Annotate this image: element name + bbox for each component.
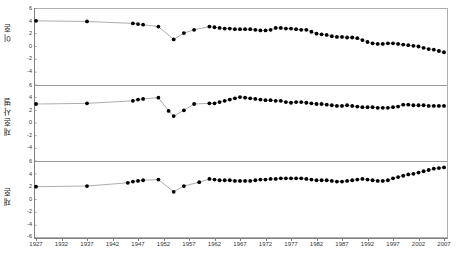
data-point — [304, 28, 308, 32]
data-point — [243, 179, 247, 183]
ytick-p2-m4: -4 — [18, 221, 32, 227]
data-point — [432, 104, 436, 108]
data-point — [218, 26, 222, 30]
data-point — [274, 177, 278, 181]
data-point — [381, 106, 385, 110]
ytick-p0-2: 2 — [18, 30, 32, 36]
data-point — [371, 41, 375, 45]
data-point — [442, 50, 446, 54]
ytick-p1-4: 4 — [18, 94, 32, 100]
data-point — [233, 179, 237, 183]
ytick-p0-4: 4 — [18, 18, 32, 24]
data-point — [442, 104, 446, 108]
data-point — [320, 32, 324, 36]
data-point — [299, 176, 303, 180]
data-point — [192, 102, 196, 106]
ytick-p2-2: 2 — [18, 183, 32, 189]
data-point — [340, 104, 344, 108]
data-point — [264, 29, 268, 33]
data-point — [213, 25, 217, 29]
data-point — [427, 47, 431, 51]
xtick-mark — [87, 238, 88, 241]
series-panel-bottom — [34, 161, 448, 238]
data-point — [355, 105, 359, 109]
data-point — [315, 178, 319, 182]
data-point — [172, 190, 176, 194]
data-point — [345, 179, 349, 183]
data-point — [406, 103, 410, 107]
xtick-mark — [291, 238, 292, 241]
data-point — [304, 177, 308, 181]
data-point — [131, 180, 135, 184]
data-point — [284, 100, 288, 104]
data-point — [350, 36, 354, 40]
ytick-p1-m2: -2 — [18, 132, 32, 138]
data-point — [330, 179, 334, 183]
data-point — [437, 166, 441, 170]
data-point — [269, 177, 273, 181]
data-point — [223, 99, 227, 103]
data-point — [233, 96, 237, 100]
data-point — [228, 27, 232, 31]
data-point — [172, 114, 176, 118]
data-point — [269, 98, 273, 102]
xtick-mark — [317, 238, 318, 241]
data-point — [85, 20, 89, 24]
data-point — [381, 179, 385, 183]
data-point — [141, 97, 145, 101]
data-point — [432, 48, 436, 52]
data-point — [279, 26, 283, 30]
data-point — [381, 42, 385, 46]
data-point — [417, 171, 421, 175]
data-point — [437, 49, 441, 53]
data-point — [218, 178, 222, 182]
ytick-p2-m6: -6 — [18, 233, 32, 239]
data-point — [355, 178, 359, 182]
xtick-mark — [36, 238, 37, 241]
data-point — [172, 38, 176, 42]
data-point — [269, 28, 273, 32]
data-point — [366, 40, 370, 44]
ytick-p0-6: 6 — [18, 5, 32, 11]
data-point — [371, 105, 375, 109]
data-point — [417, 45, 421, 49]
data-point — [335, 35, 339, 39]
data-point — [294, 100, 298, 104]
panel-title-top: 이혼 — [3, 22, 12, 42]
data-point — [427, 104, 431, 108]
data-point — [396, 175, 400, 179]
data-point — [320, 102, 324, 106]
data-point — [386, 41, 390, 45]
data-point — [157, 178, 161, 182]
ytick-p2-4: 4 — [18, 171, 32, 177]
data-point — [391, 105, 395, 109]
xtick-2007: 2007 — [429, 241, 459, 248]
xtick-mark — [444, 238, 445, 241]
data-point — [192, 28, 196, 32]
data-point — [248, 179, 252, 183]
ytick-p1-6: 6 — [18, 82, 32, 88]
data-point — [233, 27, 237, 31]
data-point — [228, 178, 232, 182]
data-point — [412, 44, 416, 48]
ytick-p0-m2: -2 — [18, 55, 32, 61]
data-point — [325, 178, 329, 182]
data-point — [325, 103, 329, 107]
series-line — [36, 21, 444, 52]
ytick-p1-0: 0 — [18, 119, 32, 125]
xtick-mark — [240, 238, 241, 241]
xtick-mark — [189, 238, 190, 241]
data-point — [350, 178, 354, 182]
data-point — [330, 103, 334, 107]
data-point — [131, 22, 135, 26]
data-point — [259, 98, 263, 102]
data-point — [310, 101, 314, 105]
ytick-p2-0: 0 — [18, 196, 32, 202]
xtick-mark — [393, 238, 394, 241]
data-point — [422, 103, 426, 107]
data-point — [238, 95, 242, 99]
series-panel-middle — [34, 85, 448, 161]
chart-root: 6 4 2 0 -2 -4 6 4 2 0 -2 -4 6 4 2 0 -2 -… — [0, 0, 460, 265]
data-point — [366, 178, 370, 182]
data-point — [432, 167, 436, 171]
